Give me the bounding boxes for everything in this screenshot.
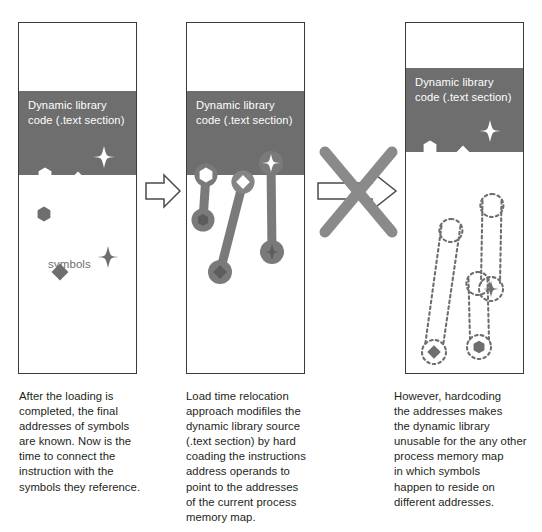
- panel-2-code-section: Dynamic library code (.text section): [187, 91, 304, 175]
- panel-1-loaded-state: Dynamic library code (.text section) sym…: [18, 22, 137, 374]
- panel-2-caption: Load time relocation approach modifiles …: [186, 389, 328, 525]
- panel-3-caption: However, hardcoding the addresses makes …: [394, 389, 542, 510]
- arrow-2-3: [318, 152, 396, 232]
- panel-1-caption: After the loading is completed, the fina…: [19, 389, 179, 495]
- arrow-1-2: [146, 175, 180, 207]
- panel-1-symbols-label: symbols: [48, 258, 91, 270]
- panel-3-other-process-state: Dynamic library code (.text section): [405, 22, 524, 374]
- panel-2-band-label: Dynamic library code (.text section): [196, 98, 326, 127]
- panel-3-band-label: Dynamic library code (.text section): [415, 75, 542, 104]
- panel-1-code-section: Dynamic library code (.text section): [19, 91, 136, 175]
- panel-3-code-section: Dynamic library code (.text section): [406, 68, 523, 152]
- cross-out-x-icon: [325, 152, 392, 232]
- panel-1-band-label: Dynamic library code (.text section): [28, 98, 158, 127]
- panel-2-relocation-state: Dynamic library code (.text section): [186, 22, 305, 374]
- figure-canvas: Dynamic library code (.text section) sym…: [0, 0, 542, 532]
